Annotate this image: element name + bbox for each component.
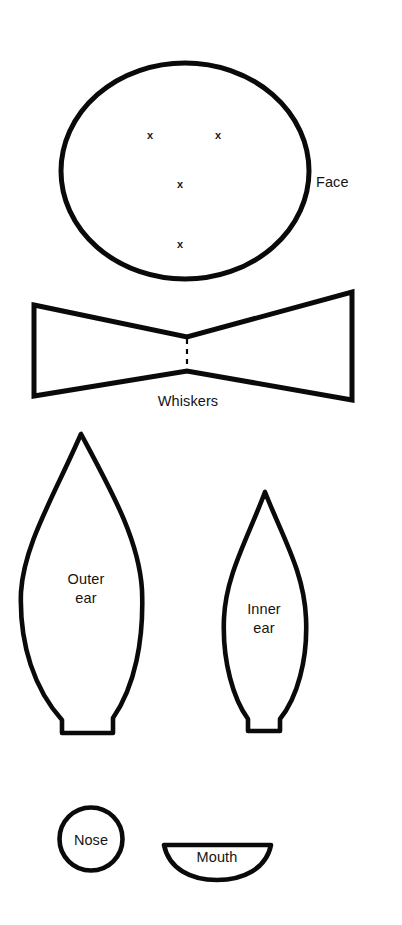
piece-face-outline: [61, 63, 309, 279]
placement-mark-right-eye: x: [215, 130, 221, 141]
label-nose: Nose: [51, 831, 131, 850]
label-inner-ear: Inner ear: [218, 600, 310, 638]
placement-mark-nose-center: x: [177, 179, 183, 190]
label-mouth: Mouth: [177, 848, 257, 867]
pattern-drawing: [0, 0, 402, 925]
pattern-sheet: x x x x Face Whiskers Outer ear Inner ea…: [0, 0, 402, 925]
placement-mark-left-eye: x: [147, 130, 153, 141]
label-face: Face: [316, 173, 349, 192]
piece-whiskers-outline: [34, 292, 352, 400]
placement-mark-mouth-center: x: [177, 239, 183, 250]
label-whiskers: Whiskers: [128, 392, 248, 411]
label-outer-ear: Outer ear: [36, 570, 136, 608]
